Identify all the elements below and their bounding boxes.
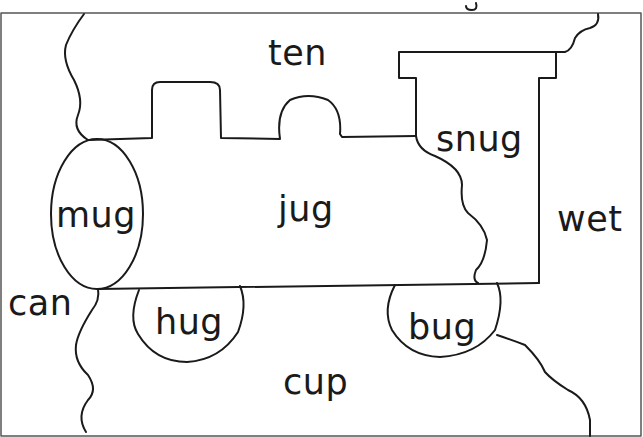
word-wet: wet xyxy=(557,202,622,237)
word-ten: ten xyxy=(268,36,327,71)
train-puzzle-worksheet: ten snug mug jug wet can hug bug cup xyxy=(0,0,643,437)
cut-line-top-left xyxy=(65,14,88,140)
cut-line-top-right xyxy=(556,14,598,52)
cropped-header-glyph xyxy=(466,3,477,10)
word-can: can xyxy=(8,286,72,321)
word-hug: hug xyxy=(155,305,223,340)
train-bottom-edge xyxy=(98,283,539,289)
word-snug: snug xyxy=(436,122,523,157)
train-top-edge xyxy=(88,82,416,140)
word-mug: mug xyxy=(56,198,136,233)
cut-line-bottom-left xyxy=(76,289,99,432)
word-bug: bug xyxy=(408,310,476,345)
word-jug: jug xyxy=(278,192,334,227)
cut-line-bottom-right xyxy=(497,335,590,436)
word-cup: cup xyxy=(283,365,348,400)
chimney-right xyxy=(539,52,556,283)
